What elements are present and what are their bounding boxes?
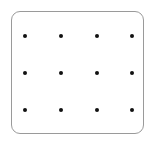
grid-dot — [23, 34, 27, 38]
grid-dot — [23, 71, 27, 75]
grid-dot — [130, 108, 134, 112]
grid-dot — [59, 108, 63, 112]
grid-dot — [59, 71, 63, 75]
grid-dot — [95, 71, 99, 75]
grid-dot — [130, 71, 134, 75]
grid-dot — [23, 108, 27, 112]
grid-dot — [95, 108, 99, 112]
grid-dot — [59, 34, 63, 38]
grid-dot — [95, 34, 99, 38]
dot-grid-frame — [11, 11, 144, 134]
grid-dot — [130, 34, 134, 38]
